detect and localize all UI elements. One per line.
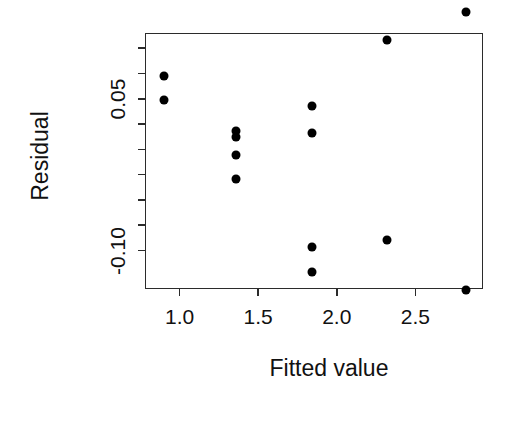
- data-point: [461, 285, 470, 294]
- y-tick-mark: [138, 47, 145, 49]
- data-point: [232, 150, 241, 159]
- y-tick-mark: [138, 73, 145, 75]
- y-tick-mark: [138, 174, 145, 176]
- x-tick-label: 1.0: [165, 305, 194, 329]
- data-point: [232, 175, 241, 184]
- y-tick-label: 0.05: [106, 78, 130, 119]
- data-point: [383, 35, 392, 44]
- y-tick-mark: [138, 199, 145, 201]
- x-tick-mark: [179, 289, 181, 296]
- data-point: [461, 8, 470, 17]
- x-tick-label: 2.0: [322, 305, 351, 329]
- y-tick-label: -0.10: [106, 227, 130, 275]
- data-point: [232, 132, 241, 141]
- x-tick-mark: [257, 289, 259, 296]
- x-tick-label: 1.5: [244, 305, 273, 329]
- data-point: [159, 96, 168, 105]
- y-tick-mark: [138, 149, 145, 151]
- y-tick-mark: [138, 98, 145, 100]
- x-tick-label: 2.5: [401, 305, 430, 329]
- y-tick-mark: [138, 224, 145, 226]
- y-tick-mark: [138, 123, 145, 125]
- residual-vs-fitted-scatter-plot: 0.05-0.10 1.01.52.02.5 Fitted value Resi…: [0, 0, 506, 428]
- data-point: [307, 243, 316, 252]
- x-axis-title: Fitted value: [270, 355, 389, 382]
- y-tick-mark: [138, 250, 145, 252]
- x-tick-mark: [336, 289, 338, 296]
- data-point: [307, 128, 316, 137]
- x-tick-mark: [415, 289, 417, 296]
- data-point: [383, 235, 392, 244]
- data-point: [307, 102, 316, 111]
- data-point: [159, 72, 168, 81]
- y-axis-title: Residual: [27, 111, 54, 201]
- data-point: [307, 268, 316, 277]
